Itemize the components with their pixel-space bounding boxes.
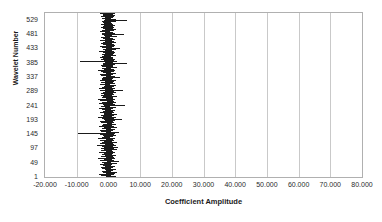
bar [108,42,116,43]
bar [108,65,112,66]
bar [108,162,111,163]
bar [108,64,115,65]
bar [108,80,110,81]
bar [101,59,109,60]
bar [108,145,115,146]
bar [108,42,112,43]
bar [108,57,113,58]
bar [108,58,110,59]
bar [108,84,110,85]
bar [99,152,108,153]
bar [108,154,111,155]
bar [108,160,114,161]
bar [108,26,112,27]
bar [108,61,111,62]
bar [108,167,113,168]
bar [108,158,110,159]
bar [108,139,110,140]
bar [108,107,111,108]
bar [108,104,114,105]
bar [108,149,117,150]
bar [108,47,111,48]
bar [104,13,109,14]
bar [108,119,121,120]
bar [108,169,115,170]
bar [108,32,112,33]
bar [100,164,108,165]
x-tick-30: 30.000 [193,180,214,190]
bar [108,97,112,98]
bar [108,172,110,173]
bar [108,56,111,57]
bar [108,176,112,177]
bar [108,59,115,60]
bar [100,31,108,32]
bar [108,14,113,15]
bar [108,70,111,71]
bar [108,121,112,122]
bar [108,46,110,47]
bar [108,140,114,141]
bar [100,130,109,131]
bar [108,82,112,83]
bar [108,150,112,151]
bar [108,111,110,112]
bar [108,166,115,167]
x-tick-80: 80.000 [351,180,372,190]
bar [101,71,109,72]
bar [108,158,115,159]
bar [99,174,109,175]
bar [101,37,108,38]
bar [108,146,111,147]
y-tick-385: 385 [26,59,38,67]
bar [108,45,113,46]
bar [108,99,115,100]
x-tick-0: 0.000 [100,180,118,190]
bar [108,43,111,44]
bar [108,53,114,54]
bar [108,37,110,38]
bar [108,90,123,91]
bar [108,81,113,82]
bar [100,80,109,81]
bar [108,108,110,109]
bar [102,162,109,163]
bar [108,172,117,173]
bar [108,49,115,50]
bar [108,87,111,88]
bar [108,39,115,40]
bar [108,19,113,20]
bar [108,133,115,134]
bar [108,114,116,115]
bar [108,69,113,70]
bar [108,14,111,15]
bar [108,177,342,178]
bar [100,143,109,144]
bar [108,64,111,65]
bar [108,136,111,137]
bar [108,164,111,165]
x-tick-60: 60.000 [288,180,309,190]
bar [108,88,115,89]
bar [101,148,109,149]
bar [98,70,108,71]
bar [108,27,114,28]
bar [108,74,113,75]
bar [108,115,113,116]
bar [108,103,113,104]
bar [102,68,109,69]
wavelet-coefficient-chart: Wavelet Number 5294814333853372892411931… [0,0,382,222]
bar [108,35,110,36]
bar [101,122,108,123]
bar [108,144,111,145]
bar [108,174,110,175]
bar [108,73,115,74]
bar [108,16,114,17]
bar [108,101,114,102]
bar [98,99,109,100]
bar [108,98,113,99]
bar [108,174,114,175]
bar [108,79,110,80]
bar [108,147,118,148]
bar [102,30,109,31]
